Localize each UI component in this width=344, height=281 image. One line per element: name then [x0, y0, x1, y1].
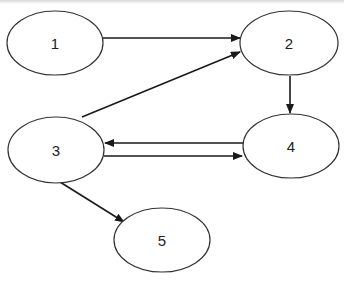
- node-4: 4: [243, 114, 339, 178]
- edge-3-to-2-arrow-icon: [82, 52, 240, 117]
- edge-3-to-5-arrow-icon: [60, 182, 124, 222]
- node-label: 3: [52, 142, 60, 159]
- node-label: 2: [285, 35, 293, 52]
- node-label: 4: [287, 138, 295, 155]
- node-label: 5: [158, 232, 166, 249]
- node-label: 1: [51, 35, 59, 52]
- node-2: 2: [240, 11, 338, 75]
- node-5: 5: [114, 208, 210, 272]
- node-3: 3: [8, 117, 104, 183]
- node-1: 1: [7, 11, 103, 75]
- nodes-group: 12345: [7, 11, 339, 272]
- graph-diagram: 12345: [0, 0, 344, 281]
